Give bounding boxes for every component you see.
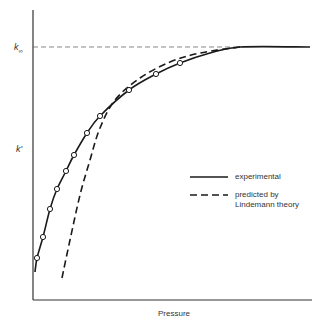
data-point-marker — [71, 152, 76, 157]
data-point-marker — [126, 87, 131, 92]
legend-lindemann-label: predicted by Lindemann theory — [235, 190, 299, 210]
y-axis-label: k' — [16, 144, 22, 154]
experimental-curve — [35, 47, 310, 272]
lindemann-prediction-curve — [62, 47, 240, 278]
data-point-marker — [97, 113, 102, 118]
data-point-marker — [84, 130, 89, 135]
experimental-data-points — [34, 60, 182, 260]
data-point-marker — [40, 234, 45, 239]
legend-lindemann-line2: Lindemann theory — [235, 200, 299, 210]
data-point-marker — [63, 168, 68, 173]
legend-experimental-label: experimental — [235, 172, 281, 181]
data-point-marker — [153, 71, 158, 76]
data-point-marker — [177, 60, 182, 65]
legend-lindemann-line1: predicted by — [235, 190, 299, 200]
data-point-marker — [47, 206, 52, 211]
k-infinity-label: k∞ — [14, 42, 23, 54]
data-point-marker — [54, 186, 59, 191]
legend — [190, 177, 228, 195]
chart-canvas — [0, 0, 334, 330]
x-axis-label: Pressure — [158, 309, 190, 318]
k-infinity-sub: ∞ — [19, 48, 23, 54]
data-point-marker — [34, 255, 39, 260]
